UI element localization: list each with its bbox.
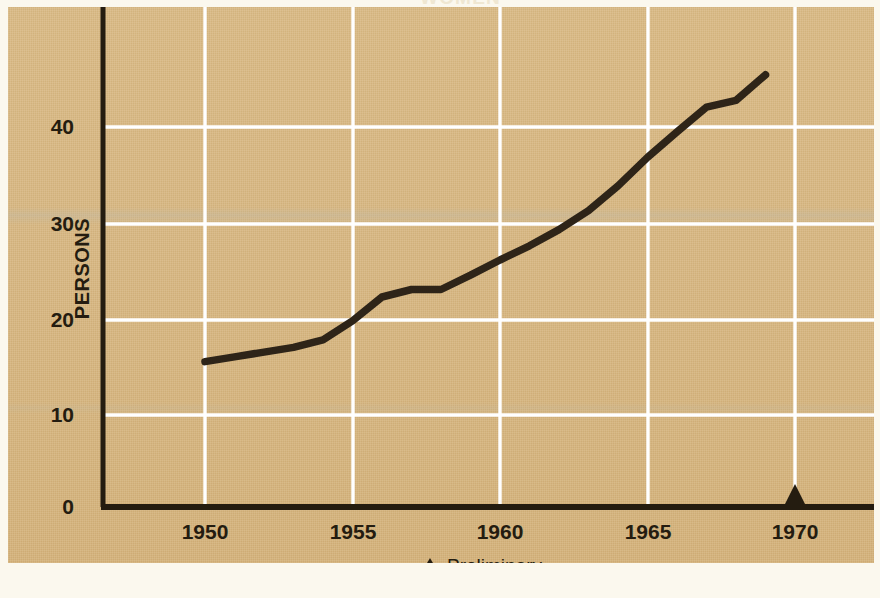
y-tick-20: 20: [26, 308, 74, 332]
x-tick-1970: 1970: [750, 520, 840, 544]
chart-title-strip: WOMEN: [0, 0, 880, 7]
chart-figure: WOMEN: [0, 0, 880, 598]
chart-title: WOMEN: [420, 0, 501, 7]
x-tick-1955: 1955: [308, 520, 398, 544]
chart-paper-panel: PERSONS 0 10 20 30 40 1950 1955 1960 196…: [8, 7, 874, 563]
bottom-page-margin: [0, 563, 880, 598]
x-tick-1960: 1960: [455, 520, 545, 544]
y-tick-30: 30: [26, 212, 74, 236]
y-tick-10: 10: [26, 403, 74, 427]
y-tick-40: 40: [26, 115, 74, 139]
y-tick-0: 0: [26, 495, 74, 519]
horizontal-gridlines: [102, 127, 874, 415]
x-tick-1950: 1950: [160, 520, 250, 544]
right-page-margin: [874, 0, 880, 598]
preliminary-triangle-marker: [785, 484, 805, 504]
x-tick-1965: 1965: [603, 520, 693, 544]
plot-area: [8, 7, 874, 563]
